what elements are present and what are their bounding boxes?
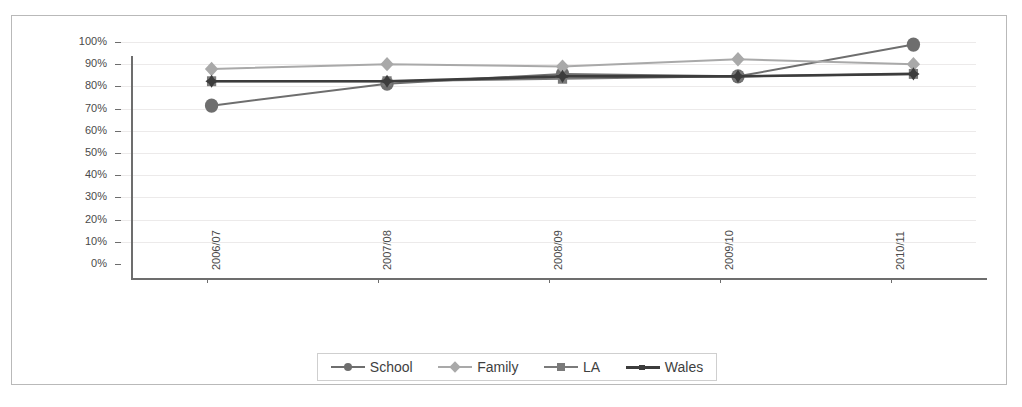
data-point-marker: [556, 70, 568, 83]
gridline: [121, 153, 976, 154]
y-axis-tick: [115, 264, 121, 265]
gridline: [121, 64, 976, 65]
data-point-marker: [731, 69, 744, 83]
y-axis-tick: [115, 42, 121, 43]
series-la: [207, 69, 918, 86]
y-axis-tick-label: 10%: [55, 236, 107, 247]
chart-legend: SchoolFamilyLAWales: [317, 353, 717, 381]
gridline: [121, 197, 976, 198]
y-axis-tick-label: 80%: [55, 80, 107, 91]
y-axis-tick: [115, 86, 121, 87]
gridline: [121, 242, 976, 243]
legend-item-school[interactable]: School: [331, 360, 413, 374]
y-axis-tick: [115, 242, 121, 243]
data-point-marker: [207, 76, 216, 86]
data-point-marker: [733, 71, 742, 81]
series-wales: [205, 67, 919, 88]
x-axis-tick: [207, 278, 208, 283]
y-axis-tick: [115, 197, 121, 198]
x-axis-tick: [549, 278, 550, 283]
legend-key-icon: [331, 361, 365, 373]
series-line: [212, 45, 914, 106]
series-line: [212, 74, 914, 81]
data-point-marker: [907, 67, 919, 80]
gridline: [121, 220, 976, 221]
y-axis-tick-label: 20%: [55, 214, 107, 225]
data-point-marker: [205, 99, 218, 113]
legend-marker: [639, 365, 645, 370]
legend-label: Family: [477, 360, 518, 374]
legend-label: School: [370, 360, 413, 374]
y-axis-tick-label: 90%: [55, 58, 107, 69]
y-axis-tick: [115, 131, 121, 132]
y-axis-tick: [115, 64, 121, 65]
y-axis-tick-label: 60%: [55, 125, 107, 136]
legend-label: LA: [583, 360, 600, 374]
legend-key-icon: [544, 361, 578, 373]
x-axis-tick: [891, 278, 892, 283]
legend-label: Wales: [665, 360, 703, 374]
data-point-marker: [558, 74, 567, 84]
series-plot: [12, 16, 1022, 407]
y-axis-line: [131, 56, 133, 280]
legend-item-wales[interactable]: Wales: [626, 360, 703, 374]
data-point-marker: [909, 69, 918, 79]
gridline: [121, 109, 976, 110]
data-point-marker: [907, 37, 920, 51]
series-line: [212, 74, 914, 81]
legend-marker: [557, 363, 565, 371]
x-axis-tick: [378, 278, 379, 283]
legend-item-family[interactable]: Family: [438, 360, 518, 374]
y-axis-tick-label: 70%: [55, 103, 107, 114]
x-axis-line: [132, 278, 987, 280]
y-axis-tick: [115, 220, 121, 221]
legend-item-la[interactable]: LA: [544, 360, 600, 374]
data-point-marker: [556, 59, 569, 73]
x-axis-category-label: 2008/09: [553, 230, 564, 270]
y-axis-tick: [115, 153, 121, 154]
gridline: [121, 131, 976, 132]
y-axis-tick-label: 0%: [55, 258, 107, 269]
x-axis-category-label: 2006/07: [211, 230, 222, 270]
data-point-marker: [556, 67, 569, 81]
legend-key-icon: [626, 361, 660, 373]
y-axis-tick-label: 100%: [55, 36, 107, 47]
x-axis-tick: [720, 278, 721, 283]
data-point-marker: [732, 70, 744, 83]
y-axis-tick-label: 50%: [55, 147, 107, 158]
gridline: [121, 42, 976, 43]
x-axis-category-label: 2010/11: [895, 231, 906, 270]
y-axis-tick-label: 40%: [55, 169, 107, 180]
data-point-marker: [380, 77, 393, 91]
legend-marker: [450, 361, 461, 372]
y-axis-tick-label: 30%: [55, 191, 107, 202]
x-axis-category-label: 2007/08: [382, 230, 393, 270]
gridline: [121, 175, 976, 176]
x-axis-category-label: 2009/10: [724, 230, 735, 270]
legend-marker: [344, 363, 352, 371]
chart-frame: 0%10%20%30%40%50%60%70%80%90%100% 2006/0…: [11, 15, 1007, 385]
data-point-marker: [382, 76, 391, 86]
legend-key-icon: [438, 361, 472, 373]
y-axis-tick: [115, 175, 121, 176]
gridline: [121, 86, 976, 87]
series-school: [205, 37, 920, 112]
y-axis-tick: [115, 109, 121, 110]
